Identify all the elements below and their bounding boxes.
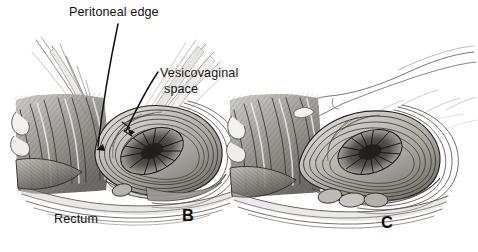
label-vesicovaginal-line2: space (164, 82, 198, 98)
panel-letter-c: C (381, 213, 393, 232)
label-peritoneal-edge: Peritoneal edge (69, 5, 159, 21)
label-vesicovaginal-space: Vesicovaginalspace (160, 66, 238, 97)
figure-container: Peritoneal edge Vesicovaginalspace Rectu… (0, 0, 478, 252)
panel-letter-b: B (182, 206, 194, 225)
label-rectum: Rectum (54, 212, 98, 228)
label-vesicovaginal-line1: Vesicovaginal (160, 66, 238, 80)
